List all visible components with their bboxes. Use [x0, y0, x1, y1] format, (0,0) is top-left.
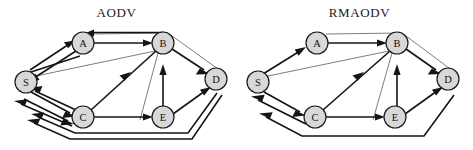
aodv-node-label-d: D [212, 74, 220, 85]
aodv-node-label-a: A [79, 38, 87, 49]
aodv-graph-svg: S A B C E D [0, 0, 237, 150]
aodv-node-d[interactable]: D [205, 68, 227, 90]
rmaodv-node-c[interactable]: C [304, 106, 326, 128]
rmaodv-node-label-a: A [313, 38, 321, 49]
rmaodv-edge-c-to-b [323, 51, 390, 110]
rmaodv-node-label-e: E [392, 112, 398, 123]
rmaodv-edge-c-to-e [326, 113, 385, 120]
aodv-node-b[interactable]: B [152, 32, 174, 54]
aodv-edge-e-to-b [159, 64, 166, 106]
diagram-panel-aodv: AODV [0, 0, 237, 150]
rmaodv-edge-s-to-a [263, 47, 306, 74]
rmaodv-edge-a-to-b [328, 39, 387, 46]
aodv-edge-c-to-b [91, 51, 156, 110]
diagram-panel-rmaodv: RMAODV [236, 0, 473, 150]
rmaodv-node-b[interactable]: B [386, 32, 408, 54]
aodv-node-c[interactable]: C [72, 106, 94, 128]
aodv-node-a[interactable]: A [72, 32, 94, 54]
rmaodv-node-e[interactable]: E [384, 106, 406, 128]
rmaodv-node-a[interactable]: A [306, 32, 328, 54]
rmaodv-node-d[interactable]: D [437, 68, 459, 90]
rmaodv-edge-b-to-d [406, 49, 442, 75]
rmaodv-edge-e-to-d [405, 87, 443, 114]
aodv-edge-c-to-s-2 [14, 99, 72, 126]
rmaodv-thin-links [268, 33, 457, 120]
aodv-edge-c-to-e [94, 113, 153, 120]
aodv-node-label-b: B [159, 38, 166, 49]
rmaodv-node-label-d: D [444, 74, 452, 85]
aodv-edge-b-to-d [172, 49, 210, 75]
rmaodv-node-label-s: S [255, 77, 261, 88]
rmaodv-node-s[interactable]: S [247, 71, 269, 93]
aodv-edge-a-to-b [94, 39, 153, 46]
rmaodv-graph-svg: S A B C E D [236, 0, 473, 150]
aodv-node-s[interactable]: S [15, 71, 37, 93]
aodv-thin-links [36, 33, 225, 120]
rmaodv-node-label-b: B [393, 38, 400, 49]
rmaodv-edge-e-to-b [393, 64, 400, 106]
aodv-node-e[interactable]: E [152, 106, 174, 128]
aodv-node-label-e: E [160, 112, 166, 123]
aodv-node-label-c: C [79, 112, 86, 123]
aodv-edge-d-to-s-1 [31, 93, 217, 133]
aodv-node-label-s: S [23, 77, 29, 88]
rmaodv-node-label-c: C [311, 112, 318, 123]
aodv-edge-c-to-s-1 [29, 86, 76, 110]
aodv-edge-b-to-a [82, 30, 164, 37]
figure-canvas: AODV [0, 0, 473, 150]
